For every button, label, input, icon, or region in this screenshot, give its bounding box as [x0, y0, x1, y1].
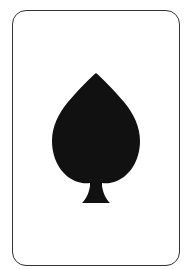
- playing-card[interactable]: spades: [12, 10, 180, 266]
- card-suit-label: spades: [13, 11, 14, 12]
